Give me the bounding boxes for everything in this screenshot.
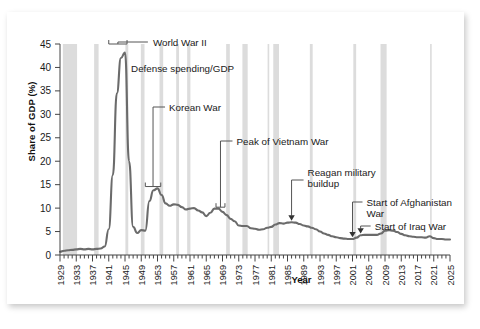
recession-band xyxy=(187,44,190,255)
recession-band xyxy=(176,44,179,255)
recession-band xyxy=(226,44,230,255)
x-axis-title: Year xyxy=(7,274,464,285)
recession-band xyxy=(160,44,164,255)
y-axis-group: 051015202530354045 xyxy=(40,39,60,261)
annotation-arrowhead xyxy=(288,215,294,220)
y-axis-tick-label: 15 xyxy=(40,179,52,190)
y-axis-tick-label: 20 xyxy=(40,156,52,167)
x-axis-title-text: Year xyxy=(291,274,311,285)
y-axis-tick-label: 5 xyxy=(45,226,51,237)
recession-band xyxy=(268,44,270,255)
annotation-reagan-buildup-line1: Reagan military xyxy=(308,167,376,178)
y-axis-tick-label: 45 xyxy=(40,39,52,50)
annotation-arrowhead xyxy=(357,228,363,233)
y-axis-tick-label: 0 xyxy=(45,250,51,261)
annotation-defense-spending-gdp: Defense spending/GDP xyxy=(131,63,234,74)
annotation-reagan-buildup-line2: buildup xyxy=(308,178,340,189)
y-axis-tick-label: 10 xyxy=(40,203,52,214)
recession-band xyxy=(63,44,77,255)
annotation-korean-war: Korean War xyxy=(169,102,222,113)
recession-band xyxy=(141,44,145,255)
y-axis-tick-label: 40 xyxy=(40,62,52,73)
recession-band xyxy=(94,44,98,255)
annotation-peak-of-vietnam-war: Peak of Vietnam War xyxy=(236,136,329,147)
annotation-afghanistan-war-line2: War xyxy=(367,208,385,219)
y-axis-tick-label: 35 xyxy=(40,85,52,96)
y-axis-tick-label: 30 xyxy=(40,109,52,120)
annotation-iraq-war: Start of Iraq War xyxy=(375,221,447,232)
y-axis-tick-label: 25 xyxy=(40,132,52,143)
recession-band xyxy=(353,44,356,255)
y-axis-title: Share of GDP (%) xyxy=(26,62,37,182)
defense-spending-chart: 051015202530354045 192919331937194119451… xyxy=(7,12,464,304)
chart-card: 051015202530354045 192919331937194119451… xyxy=(7,12,464,304)
chart-canvas: 051015202530354045 192919331937194119451… xyxy=(7,12,464,304)
recession-band xyxy=(310,44,313,255)
annotation-world-war-ii: World War II xyxy=(153,37,207,48)
recession-band xyxy=(242,44,247,255)
annotation-afghanistan-war-line1: Start of Afghanistan xyxy=(367,197,453,208)
